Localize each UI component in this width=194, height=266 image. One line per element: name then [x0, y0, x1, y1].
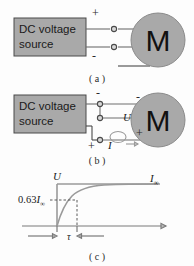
- chart-level-label: 0.63I∞: [18, 193, 45, 208]
- voltage-label-b: U: [123, 111, 132, 123]
- terminal-top-b: [97, 101, 102, 106]
- terminal-bottom-b: [97, 137, 102, 142]
- motor-polarity-top-b: -: [136, 90, 140, 104]
- panel-b: DC voltage source M U I: [0, 88, 194, 170]
- polarity-minus-a: -: [92, 49, 96, 63]
- polarity-bottom-b: +: [88, 139, 95, 153]
- terminal-lower-a: [111, 44, 116, 49]
- motor-label-a: M: [146, 24, 171, 57]
- current-loop-icon-b: [110, 132, 126, 143]
- polarity-top-b: -: [96, 86, 100, 100]
- chart-time-constant-label: τ: [67, 231, 71, 242]
- panel-b-schematic: DC voltage source M U I: [0, 88, 194, 170]
- chart-current-curve: [57, 184, 158, 226]
- terminal-upper-a: [111, 26, 116, 31]
- dc-source-label-line2-a: source: [19, 38, 54, 50]
- panel-c: U 0.63I∞ I∞ τ ( c ): [0, 170, 194, 266]
- dc-source-label-line2-b: source: [19, 115, 54, 127]
- caption-b: ( b ): [89, 155, 106, 167]
- polarity-plus-a: +: [92, 6, 99, 20]
- dc-source-label-line1-a: DC voltage: [19, 23, 76, 35]
- chart-level-sub: ∞: [40, 200, 45, 208]
- motor-polarity-bottom-b: +: [136, 126, 143, 140]
- panel-a-schematic: DC voltage source M + - ( a ): [0, 0, 194, 88]
- chart-level-value: 0.63: [18, 194, 36, 205]
- figure-sheet: DC voltage source M + - ( a ) DC voltag: [0, 0, 194, 266]
- step-response-chart: U 0.63I∞ I∞ τ ( c ): [0, 170, 194, 266]
- caption-a: ( a ): [89, 73, 105, 85]
- panel-a: DC voltage source M + - ( a ): [0, 0, 194, 88]
- dc-source-label-line1-b: DC voltage: [19, 100, 76, 112]
- motor-label-b: M: [146, 104, 171, 137]
- chart-y-axis-label: U: [53, 170, 62, 182]
- terminal-middle-b: [97, 115, 102, 120]
- caption-c: ( c ): [89, 251, 105, 263]
- chart-asymptote-sub: ∞: [154, 179, 159, 187]
